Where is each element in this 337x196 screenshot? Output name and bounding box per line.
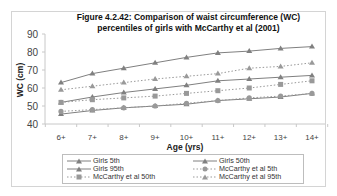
x-tick-label: 10+ (180, 133, 194, 142)
triangle-marker-icon (58, 87, 64, 92)
y-tick-label: 50 (27, 101, 39, 112)
legend-item-mccarthy-95th: McCarthy et al 95th (193, 173, 281, 181)
triangle-marker-icon (152, 76, 158, 81)
square-marker-icon (247, 86, 252, 91)
circle-marker-icon (153, 103, 158, 108)
square-marker-icon (90, 97, 95, 102)
triangle-marker-icon (309, 60, 315, 65)
circle-marker-icon (58, 109, 63, 114)
y-tick-label: 60 (27, 83, 39, 94)
circle-marker-icon (278, 94, 283, 99)
x-tick-label: 11+ (211, 133, 224, 142)
triangle-marker-icon (309, 72, 315, 77)
y-tick-label: 40 (27, 119, 39, 130)
legend-swatch-icon (67, 173, 91, 181)
square-marker-icon (184, 91, 189, 96)
triangle-marker-icon (246, 65, 252, 70)
x-tick-label: 14+ (305, 133, 319, 142)
x-tick-label: 8+ (119, 133, 128, 142)
triangle-marker-icon (278, 63, 284, 68)
series-line (61, 75, 312, 102)
triangle-marker-icon (184, 73, 190, 78)
legend-swatch-icon (193, 173, 217, 181)
y-tick-label: 70 (27, 65, 39, 76)
x-tick-label: 12+ (242, 133, 256, 142)
circle-marker-icon (215, 98, 220, 103)
x-tick-label: 7+ (88, 133, 97, 142)
legend-swatch-icon (67, 157, 91, 165)
square-marker-icon (59, 100, 64, 105)
circle-marker-icon (247, 95, 252, 100)
square-marker-icon (278, 82, 283, 87)
legend-item-mccarthy-50th: McCarthy et al 50th (67, 173, 155, 181)
circle-marker-icon (90, 107, 95, 112)
triangle-marker-icon (309, 44, 315, 49)
circle-marker-icon (121, 105, 126, 110)
square-marker-icon (121, 95, 126, 100)
triangle-marker-icon (89, 83, 95, 88)
legend-swatch-icon (67, 165, 91, 173)
legend-swatch-icon (193, 157, 217, 165)
circle-marker-icon (309, 91, 314, 96)
circle-marker-icon (184, 101, 189, 106)
y-tick-label: 90 (27, 29, 39, 40)
x-tick-label: 6+ (56, 133, 65, 142)
square-marker-icon (153, 94, 158, 99)
square-marker-icon (310, 78, 315, 83)
x-tick-label: 13+ (274, 133, 288, 142)
y-axis-label: WC (cm) (15, 63, 25, 98)
x-tick-label: 9+ (151, 133, 160, 142)
y-tick-label: 80 (27, 47, 39, 58)
chart-legend: Girls 5th Girls 50th Girls 95th McCarthy… (62, 154, 304, 184)
square-marker-icon (215, 88, 220, 93)
x-axis-label: Age (yrs) (167, 142, 204, 152)
legend-swatch-icon (193, 165, 217, 173)
triangle-marker-icon (215, 71, 221, 76)
triangle-marker-icon (121, 80, 127, 85)
